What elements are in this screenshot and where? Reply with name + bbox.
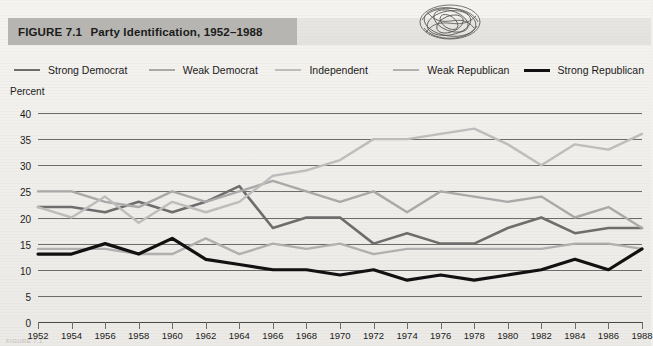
legend-label-weak-republican: Weak Republican — [427, 64, 509, 76]
x-tick-label-1962: 1962 — [195, 330, 216, 341]
page-title: FIGURE 7.1 Party Identification, 1952–19… — [8, 26, 263, 38]
x-tick-label-1986: 1986 — [598, 330, 619, 341]
y-tick-label-5: 5 — [25, 293, 31, 303]
figure-title-bar: FIGURE 7.1 Party Identification, 1952–19… — [8, 18, 297, 45]
x-tick-label-1982: 1982 — [531, 330, 552, 341]
x-tick-mark-1966 — [273, 322, 274, 329]
y-tick-label-20: 20 — [20, 215, 31, 225]
legend-label-strong-republican: Strong Republican — [558, 64, 644, 76]
x-tick-mark-1958 — [139, 322, 140, 329]
legend-swatch-strong-democrat — [14, 69, 40, 71]
x-tick-mark-1974 — [407, 322, 408, 329]
page-footnote: FIGURE 7.1 — [6, 338, 43, 344]
x-tick-mark-1988 — [642, 322, 643, 329]
series-lines — [38, 113, 642, 322]
x-tick-mark-1978 — [474, 322, 475, 329]
x-tick-label-1972: 1972 — [363, 330, 384, 341]
x-tick-label-1978: 1978 — [464, 330, 485, 341]
x-tick-label-1968: 1968 — [296, 330, 317, 341]
x-tick-label-1960: 1960 — [162, 330, 183, 341]
y-tick-label-30: 30 — [20, 162, 31, 172]
figure-number: FIGURE 7.1 — [18, 26, 82, 38]
legend-swatch-weak-republican — [393, 69, 419, 71]
x-tick-label-1970: 1970 — [329, 330, 350, 341]
x-tick-mark-1956 — [105, 322, 106, 329]
x-tick-mark-1972 — [374, 322, 375, 329]
legend-label-strong-democrat: Strong Democrat — [48, 64, 127, 76]
x-tick-mark-1980 — [508, 322, 509, 329]
legend-item-strong-republican[interactable]: Strong Republican — [524, 64, 644, 76]
legend-label-weak-democrat: Weak Democrat — [183, 64, 258, 76]
legend-label-independent: Independent — [309, 64, 367, 76]
series-line-independent — [38, 129, 642, 223]
y-tick-label-35: 35 — [20, 136, 31, 146]
x-tick-mark-1968 — [306, 322, 307, 329]
y-tick-label-40: 40 — [20, 110, 31, 120]
y-tick-label-10: 10 — [20, 267, 31, 277]
x-tick-label-1988: 1988 — [631, 330, 652, 341]
chart-legend: Strong Democrat Weak Democrat Independen… — [14, 61, 644, 79]
x-tick-mark-1982 — [541, 322, 542, 329]
legend-item-independent[interactable]: Independent — [275, 64, 393, 76]
x-tick-label-1974: 1974 — [397, 330, 418, 341]
x-tick-label-1984: 1984 — [564, 330, 585, 341]
y-tick-label-0: 0 — [25, 319, 31, 329]
legend-item-strong-democrat[interactable]: Strong Democrat — [14, 64, 149, 76]
x-tick-label-1976: 1976 — [430, 330, 451, 341]
x-tick-mark-1970 — [340, 322, 341, 329]
legend-swatch-weak-democrat — [149, 69, 175, 71]
x-tick-mark-1954 — [72, 322, 73, 329]
x-tick-mark-1960 — [172, 322, 173, 329]
legend-swatch-strong-republican — [524, 69, 550, 72]
x-tick-mark-1976 — [441, 322, 442, 329]
legend-item-weak-republican[interactable]: Weak Republican — [393, 64, 523, 76]
x-tick-label-1956: 1956 — [95, 330, 116, 341]
x-tick-mark-1984 — [575, 322, 576, 329]
legend-swatch-independent — [275, 69, 301, 71]
x-tick-mark-1986 — [608, 322, 609, 329]
y-axis-label: Percent — [10, 86, 44, 97]
x-tick-label-1966: 1966 — [262, 330, 283, 341]
figure-title-text: Party Identification, 1952–1988 — [91, 26, 263, 38]
x-tick-label-1958: 1958 — [128, 330, 149, 341]
y-tick-label-15: 15 — [20, 241, 31, 251]
x-tick-mark-1964 — [239, 322, 240, 329]
y-tick-label-25: 25 — [20, 188, 31, 198]
x-tick-label-1954: 1954 — [61, 330, 82, 341]
pen-scribble-icon — [404, 0, 496, 44]
x-tick-label-1980: 1980 — [497, 330, 518, 341]
legend-item-weak-democrat[interactable]: Weak Democrat — [149, 64, 276, 76]
x-tick-label-1964: 1964 — [229, 330, 250, 341]
x-tick-mark-1952 — [38, 322, 39, 329]
x-tick-mark-1962 — [206, 322, 207, 329]
